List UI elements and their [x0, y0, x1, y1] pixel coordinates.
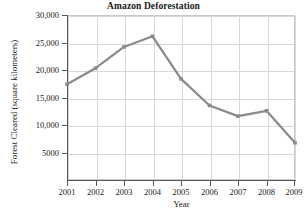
- x-axis-title: Year: [67, 199, 296, 209]
- y-tick-mark: [62, 70, 68, 71]
- x-tick-label: 2004: [144, 187, 161, 197]
- x-tick-mark: [238, 181, 239, 186]
- gridline-vertical: [154, 16, 155, 179]
- x-tick-label: 2006: [201, 187, 218, 197]
- x-tick-label: 2002: [87, 187, 104, 197]
- gridline-vertical: [68, 16, 69, 179]
- y-tick-mark: [62, 15, 68, 16]
- x-tick-mark: [294, 181, 295, 186]
- y-tick-mark: [62, 125, 68, 126]
- gridline-vertical: [295, 16, 296, 179]
- x-tick-mark: [153, 181, 154, 186]
- y-tick-mark: [62, 43, 68, 44]
- y-tick-label: 25,000: [36, 38, 59, 48]
- y-tick-mark: [62, 153, 68, 154]
- x-tick-label: 2008: [258, 187, 275, 197]
- gridline-horizontal: [68, 99, 294, 100]
- y-tick-label: 30,000: [36, 10, 59, 20]
- x-tick-mark: [124, 181, 125, 186]
- x-tick-mark: [181, 181, 182, 186]
- gridline-vertical: [239, 16, 240, 179]
- gridline-horizontal: [68, 126, 294, 127]
- chart-figure: Amazon Deforestation 30,000 25,000 20,00…: [0, 0, 307, 217]
- y-tick-label: 5000: [42, 148, 59, 158]
- gridline-horizontal: [68, 154, 294, 155]
- y-tick-mark: [62, 98, 68, 99]
- x-tick-mark: [267, 181, 268, 186]
- gridline-horizontal: [68, 44, 294, 45]
- y-tick-label: 20,000: [36, 65, 59, 75]
- plot-area: [67, 15, 295, 180]
- gridline-horizontal: [68, 71, 294, 72]
- x-tick-label: 2003: [116, 187, 133, 197]
- x-tick-mark: [67, 181, 68, 186]
- gridline-vertical: [211, 16, 212, 179]
- gridline-vertical: [97, 16, 98, 179]
- x-tick-label: 2001: [59, 187, 76, 197]
- gridline-vertical: [268, 16, 269, 179]
- y-tick-label: 15,000: [36, 93, 59, 103]
- y-tick-label: 10,000: [36, 120, 59, 130]
- gridline-vertical: [182, 16, 183, 179]
- x-tick-mark: [210, 181, 211, 186]
- gridline-vertical: [125, 16, 126, 179]
- x-tick-label: 2007: [230, 187, 247, 197]
- x-tick-label: 2009: [286, 187, 303, 197]
- y-axis-title: Forest Cleared (square kilometers): [9, 27, 19, 177]
- x-tick-mark: [96, 181, 97, 186]
- gridline-horizontal: [68, 16, 294, 17]
- x-tick-label: 2005: [173, 187, 190, 197]
